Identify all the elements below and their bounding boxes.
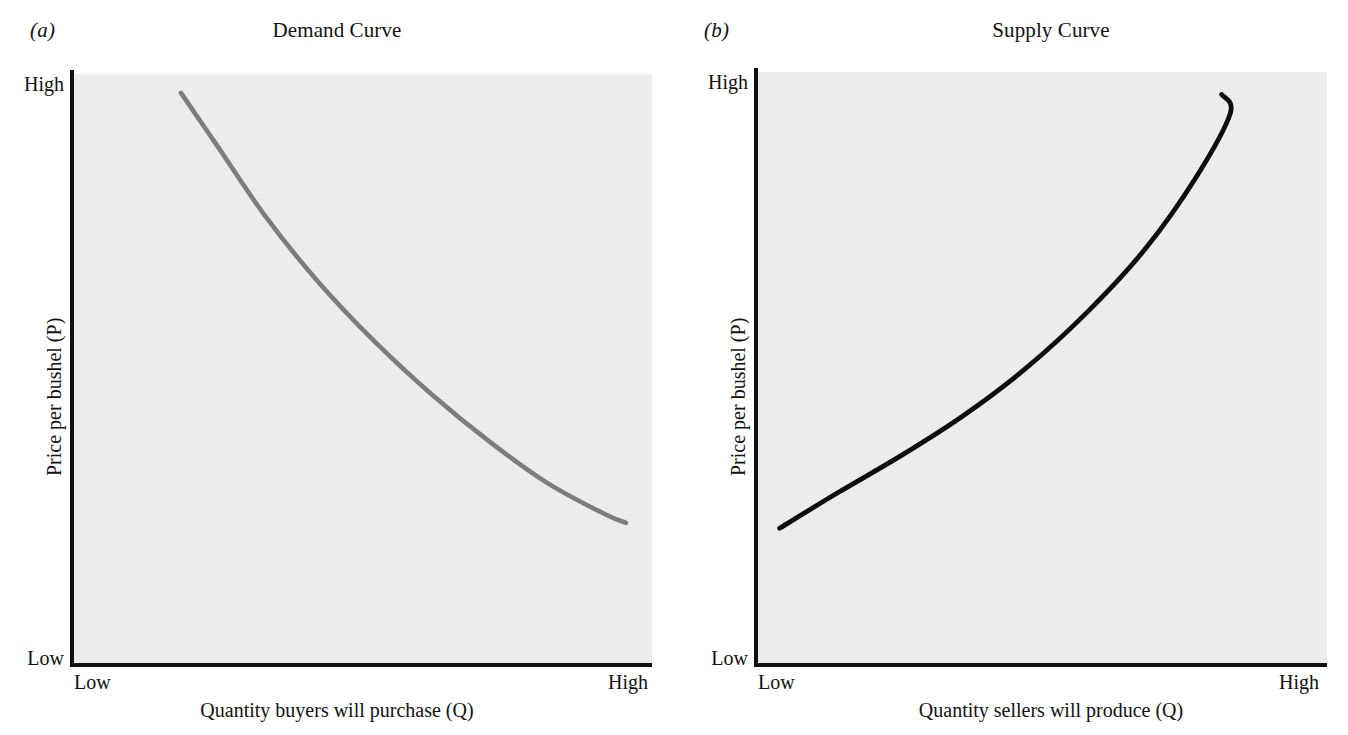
y-axis-tick-low-supply: Low: [711, 648, 748, 668]
x-axis-title-demand: Quantity buyers will purchase (Q): [0, 700, 674, 720]
y-axis-line-demand: [70, 70, 74, 667]
plot-area-supply: [758, 72, 1327, 663]
x-axis-line-demand: [70, 663, 652, 667]
x-axis-title-supply: Quantity sellers will produce (Q): [714, 700, 1348, 720]
y-axis-tick-high-supply: High: [708, 72, 748, 92]
x-axis-tick-low-supply: Low: [758, 672, 795, 692]
x-axis-line-supply: [754, 663, 1327, 667]
y-axis-line-supply: [754, 68, 758, 667]
chart-title-demand: Demand Curve: [0, 20, 674, 41]
supply-demand-figure: (a) Demand Curve High Low Low High Price…: [0, 0, 1348, 735]
panel-demand: (a) Demand Curve High Low Low High Price…: [0, 0, 674, 735]
paper-grain-texture: [758, 72, 1327, 663]
x-axis-tick-high-demand: High: [608, 672, 648, 692]
y-axis-tick-low-demand: Low: [27, 648, 64, 668]
panel-supply: (b) Supply Curve High Low Low High Price…: [674, 0, 1348, 735]
y-axis-title-supply: Price per bushel (P): [728, 318, 748, 476]
x-axis-tick-low-demand: Low: [74, 672, 111, 692]
y-axis-title-demand: Price per bushel (P): [44, 318, 64, 476]
chart-title-supply: Supply Curve: [714, 20, 1348, 41]
plot-area-demand: [74, 74, 652, 663]
y-axis-tick-high-demand: High: [24, 74, 64, 94]
x-axis-tick-high-supply: High: [1279, 672, 1319, 692]
paper-grain-texture: [74, 74, 652, 663]
